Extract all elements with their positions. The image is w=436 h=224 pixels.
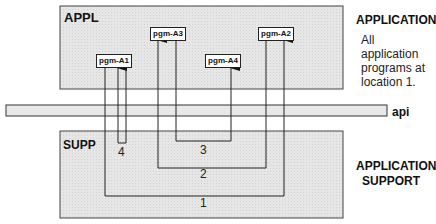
title-line: SUPPORT — [356, 174, 426, 189]
path-number-3: 3 — [200, 143, 207, 157]
path-number-2: 2 — [200, 167, 207, 181]
desc-line: programs at — [361, 61, 429, 75]
title-line: APPLICATION — [356, 159, 426, 174]
appl-box — [60, 6, 343, 89]
program-box-pgm-a3: pgm-A3 — [150, 27, 186, 41]
application-desc: All application programs at location 1. — [361, 33, 429, 89]
api-bar — [6, 105, 387, 116]
desc-line: location 1. — [361, 75, 429, 89]
api-label: api — [392, 105, 409, 119]
application-support-title: APPLICATION SUPPORT — [356, 159, 426, 189]
program-box-pgm-a1: pgm-A1 — [96, 54, 132, 68]
path-number-1: 1 — [200, 196, 207, 210]
desc-line: All application — [361, 33, 429, 61]
path-number-4: 4 — [118, 145, 125, 159]
supp-label: SUPP — [63, 138, 96, 152]
application-title: APPLICATION — [356, 13, 436, 27]
appl-label: APPL — [64, 10, 99, 25]
program-box-pgm-a4: pgm-A4 — [205, 54, 241, 68]
program-box-pgm-a2: pgm-A2 — [258, 27, 294, 41]
